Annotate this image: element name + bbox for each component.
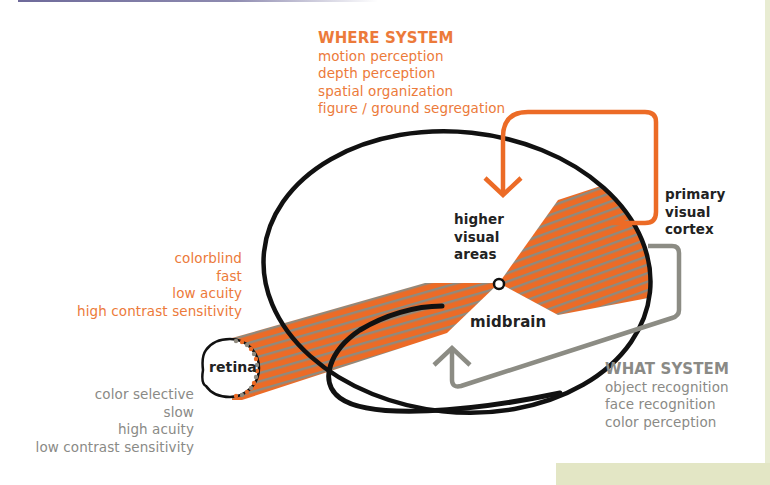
property-item: fast xyxy=(77,268,242,286)
property-item: high contrast sensitivity xyxy=(77,303,242,321)
what-system-title: WHAT SYSTEM xyxy=(605,361,729,379)
label-line: primary xyxy=(665,186,725,204)
label-line: visual xyxy=(665,204,725,222)
what-system-block: WHAT SYSTEM object recognition face reco… xyxy=(605,361,729,431)
what-item: face recognition xyxy=(605,396,729,414)
property-item: high acuity xyxy=(36,421,194,439)
where-item: figure / ground segregation xyxy=(318,100,505,118)
property-item: low acuity xyxy=(77,285,242,303)
where-system-title: WHERE SYSTEM xyxy=(318,30,505,48)
label-line: higher xyxy=(454,211,504,229)
label-line: areas xyxy=(454,246,504,264)
where-item: motion perception xyxy=(318,48,505,66)
primary-visual-cortex-label: primary visual cortex xyxy=(665,186,725,239)
property-item: slow xyxy=(36,404,194,422)
property-item: colorblind xyxy=(77,250,242,268)
what-item: color perception xyxy=(605,414,729,432)
midbrain-label: midbrain xyxy=(470,314,546,332)
label-line: visual xyxy=(454,229,504,247)
label-line: cortex xyxy=(665,221,725,239)
property-item: low contrast sensitivity xyxy=(36,439,194,457)
midbrain-to-cortex-fibers xyxy=(499,160,690,315)
where-system-block: WHERE SYSTEM motion perception depth per… xyxy=(318,30,505,118)
magno-properties: colorblind fast low acuity high contrast… xyxy=(77,250,242,320)
parvo-properties: color selective slow high acuity low con… xyxy=(36,386,194,456)
what-item: object recognition xyxy=(605,379,729,397)
property-item: color selective xyxy=(36,386,194,404)
retina-label: retina xyxy=(209,359,257,377)
where-item: depth perception xyxy=(318,65,505,83)
higher-visual-areas-label: higher visual areas xyxy=(454,211,504,264)
midbrain-node xyxy=(494,279,504,289)
where-item: spatial organization xyxy=(318,83,505,101)
